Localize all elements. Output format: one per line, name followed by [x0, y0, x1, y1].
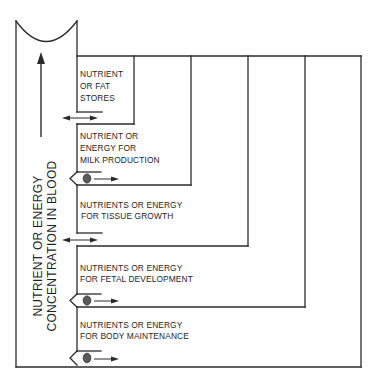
svg-text:NUTRIENT OR ENERGY: NUTRIENT OR ENERGY	[31, 175, 45, 316]
up-arrow-icon	[37, 52, 45, 137]
svg-text:ENERGY FOR: ENERGY FOR	[80, 143, 136, 153]
svg-text:CONCENTRATION IN BLOOD: CONCENTRATION IN BLOOD	[45, 160, 59, 331]
svg-text:NUTRIENT: NUTRIENT	[80, 69, 123, 79]
svg-text:FOR FETAL DEVELOPMENT: FOR FETAL DEVELOPMENT	[80, 274, 193, 284]
label-fat-stores: NUTRIENT OR FAT STORES	[80, 69, 123, 103]
label-body-maintenance: NUTRIENTS OR ENERGY FOR BODY MAINTENANCE	[80, 320, 189, 341]
svg-text:NUTRIENTS OR ENERGY: NUTRIENTS OR ENERGY	[80, 263, 183, 273]
label-fetal-development: NUTRIENTS OR ENERGY FOR FETAL DEVELOPMEN…	[80, 263, 193, 284]
svg-text:NUTRIENTS OR ENERGY: NUTRIENTS OR ENERGY	[80, 320, 183, 330]
svg-text:NUTRIENTS OR ENERGY: NUTRIENTS OR ENERGY	[80, 200, 183, 210]
valve-icon	[70, 172, 119, 185]
svg-text:NUTRIENT OR: NUTRIENT OR	[80, 131, 138, 141]
label-tissue-growth: NUTRIENTS OR ENERGY FOR TISSUE GROWTH	[80, 200, 183, 221]
valve-icon	[70, 294, 119, 307]
svg-text:STORES: STORES	[80, 93, 115, 103]
compartment-outlines	[16, 56, 361, 367]
nutrient-partitioning-diagram: NUTRIENT OR ENERGY CONCENTRATION IN BLOO…	[0, 0, 377, 383]
svg-text:OR FAT: OR FAT	[80, 81, 110, 91]
bidirectional-arrow-icon	[62, 116, 98, 121]
label-milk-production: NUTRIENT OR ENERGY FOR MILK PRODUCTION	[80, 131, 160, 165]
concentration-label: NUTRIENT OR ENERGY CONCENTRATION IN BLOO…	[31, 160, 59, 331]
svg-text:FOR BODY MAINTENANCE: FOR BODY MAINTENANCE	[80, 331, 189, 341]
svg-text:FOR TISSUE GROWTH: FOR TISSUE GROWTH	[81, 211, 173, 221]
bidirectional-arrow-icon	[62, 238, 98, 243]
svg-text:MILK PRODUCTION: MILK PRODUCTION	[80, 155, 160, 165]
valve-icon	[70, 351, 119, 365]
